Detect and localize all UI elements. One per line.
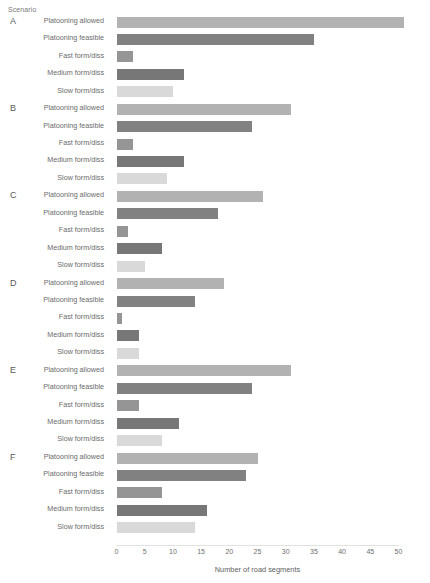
bar[interactable] [117, 139, 134, 150]
bar[interactable] [117, 487, 162, 498]
bar[interactable] [117, 348, 140, 359]
bar-row: Slow form/diss [0, 432, 430, 449]
x-tick-label: 15 [197, 548, 205, 555]
bar-category-label: Slow form/diss [0, 171, 110, 185]
bar[interactable] [117, 34, 314, 45]
bar[interactable] [117, 365, 292, 376]
bar-row: Slow form/diss [0, 345, 430, 362]
bar-category-label: Slow form/diss [0, 520, 110, 534]
bar-row: Medium form/diss [0, 241, 430, 258]
bar-track [117, 278, 427, 289]
x-tick-label: 50 [395, 548, 403, 555]
bar-row: Platooning feasible [0, 380, 430, 397]
bar-category-label: Slow form/diss [0, 432, 110, 446]
bar[interactable] [117, 208, 219, 219]
bar-track [117, 121, 427, 132]
bar[interactable] [117, 383, 252, 394]
bar-category-label: Platooning feasible [0, 31, 110, 45]
x-tick-label: 5 [143, 548, 147, 555]
bar[interactable] [117, 261, 145, 272]
bar-track [117, 51, 427, 62]
bar[interactable] [117, 191, 264, 202]
bar[interactable] [117, 400, 140, 411]
bar-category-label: Fast form/diss [0, 223, 110, 237]
bar-category-label: Fast form/diss [0, 49, 110, 63]
bar[interactable] [117, 69, 185, 80]
bar[interactable] [117, 453, 258, 464]
bar-track [117, 330, 427, 341]
bar-category-label: Slow form/diss [0, 258, 110, 272]
bar[interactable] [117, 435, 162, 446]
bar-track [117, 313, 427, 324]
bar-row: Fast form/diss [0, 49, 430, 66]
bar-track [117, 208, 427, 219]
bar[interactable] [117, 418, 179, 429]
x-tick-label: 20 [225, 548, 233, 555]
bar[interactable] [117, 86, 173, 97]
x-tick-label: 35 [310, 548, 318, 555]
bar-track [117, 156, 427, 167]
x-tick-label: 10 [169, 548, 177, 555]
bar[interactable] [117, 104, 292, 115]
bar[interactable] [117, 156, 185, 167]
bar[interactable] [117, 470, 247, 481]
bar-category-label: Platooning allowed [0, 276, 110, 290]
bar[interactable] [117, 278, 224, 289]
bar-row: Slow form/diss [0, 258, 430, 275]
bar-row: Medium form/diss [0, 66, 430, 83]
bar-track [117, 505, 427, 516]
bar-row: Medium form/diss [0, 415, 430, 432]
bar[interactable] [117, 330, 140, 341]
x-tick-label: 30 [282, 548, 290, 555]
bar-row: Platooning feasible [0, 467, 430, 484]
bar[interactable] [117, 226, 128, 237]
bar-row: Platooning feasible [0, 293, 430, 310]
x-axis-title: Number of road segments [117, 565, 399, 574]
bar-track [117, 453, 427, 464]
bar-row: Medium form/diss [0, 502, 430, 519]
bar[interactable] [117, 121, 252, 132]
bar-track [117, 69, 427, 80]
bar[interactable] [117, 51, 134, 62]
x-tick-label: 45 [366, 548, 374, 555]
bar-category-label: Platooning feasible [0, 467, 110, 481]
bar-row: Medium form/diss [0, 153, 430, 170]
bar-category-label: Medium form/diss [0, 241, 110, 255]
bar[interactable] [117, 296, 196, 307]
bar-track [117, 173, 427, 184]
bar-row: Platooning allowed [0, 101, 430, 118]
bar[interactable] [117, 243, 162, 254]
bar-row: Slow form/diss [0, 84, 430, 101]
bar-category-label: Medium form/diss [0, 502, 110, 516]
bar-category-label: Fast form/diss [0, 310, 110, 324]
bar[interactable] [117, 17, 405, 28]
bar-row: Slow form/diss [0, 171, 430, 188]
bar-track [117, 296, 427, 307]
scenario-group-c: CPlatooning allowedPlatooning feasibleFa… [0, 188, 430, 275]
bar-track [117, 226, 427, 237]
bar-track [117, 243, 427, 254]
bar-row: Platooning allowed [0, 188, 430, 205]
x-tick-label: 25 [254, 548, 262, 555]
bar-track [117, 470, 427, 481]
bar-track [117, 261, 427, 272]
bar-track [117, 418, 427, 429]
scenario-group-a: APlatooning allowedPlatooning feasibleFa… [0, 14, 430, 101]
bar-category-label: Medium form/diss [0, 415, 110, 429]
scenario-group-f: FPlatooning allowedPlatooning feasibleFa… [0, 450, 430, 537]
bar-category-label: Platooning feasible [0, 206, 110, 220]
scenario-group-e: EPlatooning allowedPlatooning feasibleFa… [0, 363, 430, 450]
bar-row: Fast form/diss [0, 310, 430, 327]
bar-track [117, 104, 427, 115]
bar[interactable] [117, 173, 168, 184]
bar-row: Platooning allowed [0, 450, 430, 467]
bar-row: Fast form/diss [0, 398, 430, 415]
bar[interactable] [117, 522, 196, 533]
bar-category-label: Slow form/diss [0, 345, 110, 359]
bar-category-label: Platooning allowed [0, 363, 110, 377]
bar-row: Fast form/diss [0, 485, 430, 502]
bar[interactable] [117, 505, 207, 516]
bar-row: Slow form/diss [0, 520, 430, 537]
bar-category-label: Medium form/diss [0, 328, 110, 342]
bar[interactable] [117, 313, 123, 324]
